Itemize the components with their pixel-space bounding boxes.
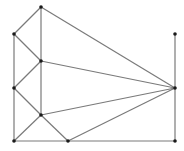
edge-C-I bbox=[41, 61, 175, 88]
node-E bbox=[39, 113, 43, 117]
edge-E-G bbox=[41, 115, 68, 141]
node-H bbox=[173, 139, 177, 143]
node-I bbox=[173, 86, 177, 90]
edge-A-I bbox=[41, 7, 175, 88]
edge-A-B bbox=[14, 7, 41, 34]
node-C bbox=[39, 59, 43, 63]
edge-E-F bbox=[14, 115, 41, 141]
node-J bbox=[173, 32, 177, 36]
node-G bbox=[66, 139, 70, 143]
node-F bbox=[12, 139, 16, 143]
edge-B-C bbox=[14, 34, 41, 61]
node-D bbox=[12, 86, 16, 90]
edges-group bbox=[14, 7, 175, 141]
node-B bbox=[12, 32, 16, 36]
edge-G-I bbox=[68, 88, 175, 141]
node-A bbox=[39, 5, 43, 9]
graph-diagram bbox=[0, 0, 184, 151]
edge-C-D bbox=[14, 61, 41, 88]
edge-E-I bbox=[41, 88, 175, 115]
edge-D-E bbox=[14, 88, 41, 115]
